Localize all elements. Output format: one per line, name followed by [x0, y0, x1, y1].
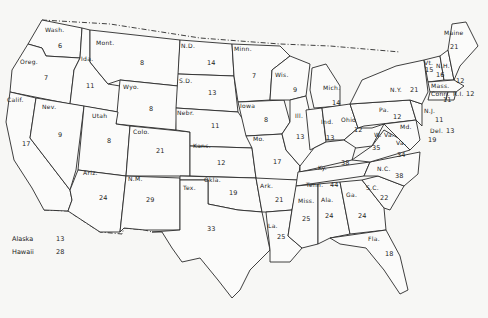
label-ariz: Ariz.	[83, 170, 98, 176]
value-nj: 11	[435, 117, 443, 124]
label-sd: S.D.	[179, 78, 192, 84]
value-fla: 18	[385, 251, 393, 258]
label-wis: Wis.	[275, 72, 289, 78]
value-sc: 22	[380, 195, 388, 202]
label-ny: N.Y.	[390, 87, 402, 93]
label-wyo: Wyo.	[123, 84, 139, 90]
label-mont: Mont.	[96, 40, 114, 46]
value-wash: 6	[58, 43, 62, 50]
label-ida: Ida.	[81, 56, 93, 62]
label-tex: Tex.	[183, 185, 196, 191]
label-okla: Okla.	[204, 177, 221, 183]
value-kans: 12	[217, 160, 225, 167]
label-ala: Ala.	[321, 197, 334, 203]
value-maine: 21	[450, 44, 458, 51]
value-nebr: 11	[211, 123, 219, 130]
label-calif: Calif.	[7, 97, 24, 103]
value-ri: 12	[466, 91, 474, 98]
label-tenn: Tenn.	[306, 182, 323, 188]
label-ill: Ill.	[295, 113, 303, 119]
label-wva: W. Va.	[374, 132, 394, 138]
label-del: Del.	[430, 128, 443, 134]
legend-hawaii-value: 28	[56, 248, 64, 256]
label-fla: Fla.	[368, 236, 380, 242]
value-wyo: 8	[149, 106, 153, 113]
label-iowa: Iowa	[240, 103, 255, 109]
value-mont: 8	[140, 60, 144, 67]
label-ohio: Ohio	[341, 117, 356, 123]
value-colo: 21	[156, 148, 164, 155]
label-la: La.	[268, 223, 278, 229]
legend-alaska: Alaska13	[12, 235, 64, 243]
label-nh: N.H.	[436, 63, 450, 69]
value-wva: 35	[372, 145, 380, 152]
label-nd: N.D.	[181, 43, 195, 49]
value-ky: 38	[341, 160, 349, 167]
label-mass: Mass.	[431, 83, 450, 89]
value-minn: 7	[252, 73, 256, 80]
value-ark: 21	[275, 197, 283, 204]
value-va: 34	[397, 152, 405, 159]
value-ind: 13	[326, 135, 334, 142]
value-nev: 9	[58, 132, 62, 139]
value-oreg: 7	[44, 75, 48, 82]
value-sd: 13	[208, 90, 216, 97]
label-nev: Nev.	[42, 104, 56, 110]
legend-hawaii-name: Hawaii	[12, 248, 56, 256]
value-nd: 14	[207, 60, 215, 67]
label-oreg: Oreg.	[20, 59, 38, 65]
value-ariz: 24	[99, 195, 107, 202]
label-pa: Pa.	[379, 107, 389, 113]
label-ri: R.I.	[453, 91, 464, 97]
label-maine: Maine	[444, 30, 464, 36]
value-mass: 12	[456, 78, 464, 85]
label-va: Va.	[396, 140, 406, 146]
label-ind: Ind.	[321, 119, 334, 125]
label-mo: Mo.	[253, 136, 265, 142]
value-ny: 21	[410, 87, 418, 94]
label-ark: Ark.	[260, 183, 273, 189]
legend-alaska-name: Alaska	[12, 235, 56, 243]
value-pa: 12	[393, 114, 401, 121]
label-minn: Minn.	[234, 46, 252, 52]
label-nm: N.M.	[128, 176, 143, 182]
legend-hawaii: Hawaii28	[12, 248, 64, 256]
value-mich: 14	[332, 100, 340, 107]
label-sc: S.C.	[366, 185, 379, 191]
value-ill: 13	[296, 134, 304, 141]
value-ohio: 12	[354, 127, 362, 134]
value-tenn: 44	[330, 182, 338, 189]
label-miss: Miss.	[298, 198, 315, 204]
label-colo: Colo.	[133, 129, 150, 135]
value-mo: 17	[273, 159, 281, 166]
label-kans: Kans.	[193, 143, 211, 149]
us-map: Wash. 6 Oreg. 7 Calif. 17 Ida. 11 Nev. 9…	[0, 0, 488, 318]
label-mich: Mich.	[323, 85, 340, 91]
value-utah: 8	[107, 138, 111, 145]
value-md: 19	[428, 137, 436, 144]
label-utah: Utah	[92, 113, 107, 119]
label-nc: N.C.	[377, 166, 391, 172]
value-iowa: 8	[264, 117, 268, 124]
value-ida: 11	[86, 83, 94, 90]
value-ala: 24	[325, 213, 333, 220]
label-nebr: Nebr.	[177, 110, 194, 116]
value-miss: 25	[302, 216, 310, 223]
label-ky: Ky.	[318, 165, 327, 171]
value-wis: 9	[293, 87, 297, 94]
label-md: Md.	[400, 124, 412, 130]
label-ga: Ga.	[346, 192, 357, 198]
label-nj: N.J.	[424, 108, 435, 114]
value-del: 13	[446, 128, 454, 135]
value-ga: 24	[358, 213, 366, 220]
value-okla: 19	[229, 190, 237, 197]
value-conn: 11	[443, 97, 451, 104]
value-tex: 33	[207, 226, 215, 233]
value-nm: 29	[146, 197, 154, 204]
value-calif: 17	[22, 141, 30, 148]
legend-alaska-value: 13	[56, 235, 64, 243]
value-vt: 15	[425, 67, 433, 74]
value-nc: 38	[395, 173, 403, 180]
value-la: 25	[277, 234, 285, 241]
value-nh: 16	[436, 72, 444, 79]
